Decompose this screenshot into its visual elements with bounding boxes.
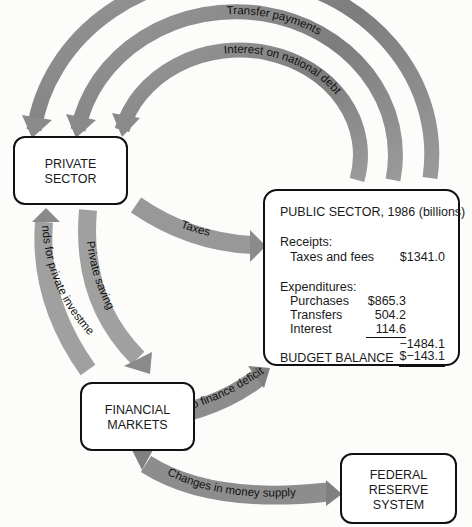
diagram-canvas: Purchases Transfer payments Interest on … — [0, 0, 472, 527]
transfer-payments-label: Transfer payments — [226, 4, 323, 37]
money-supply-arrow — [132, 448, 342, 506]
financial-markets-box: FINANCIAL MARKETS — [80, 382, 195, 451]
financial-markets-label: FINANCIAL MARKETS — [82, 403, 193, 433]
taxes-fees-value: $1341.0 — [400, 250, 445, 265]
interest-row-value: 114.6 — [366, 322, 406, 338]
private-sector-box: PRIVATE SECTOR — [13, 136, 128, 205]
federal-reserve-box: FEDERAL RESERVE SYSTEM — [340, 453, 457, 524]
transfers-row-label: Transfers — [290, 308, 342, 323]
interest-row-label: Interest — [290, 322, 332, 337]
transfers-row-value: 504.2 — [375, 308, 406, 323]
private-saving-arrow — [87, 210, 152, 374]
purchases-row-label: Purchases — [290, 294, 349, 309]
budget-balance-label: BUDGET BALANCE — [280, 351, 394, 366]
federal-reserve-label: FEDERAL RESERVE SYSTEM — [342, 468, 455, 513]
purchases-row-value: $865.3 — [368, 294, 406, 309]
public-sector-box: PUBLIC SECTOR, 1986 (billions) Receipts:… — [263, 189, 460, 366]
receipts-heading: Receipts: — [280, 235, 332, 250]
public-sector-title: PUBLIC SECTOR, 1986 (billions) — [280, 205, 465, 220]
money-supply-label: Changes in money supply — [166, 466, 296, 499]
budget-balance-value: $−143.1 — [399, 349, 445, 367]
private-sector-label: PRIVATE SECTOR — [15, 157, 126, 187]
expenditures-heading: Expenditures: — [280, 280, 356, 295]
taxes-fees-label: Taxes and fees — [290, 250, 374, 265]
